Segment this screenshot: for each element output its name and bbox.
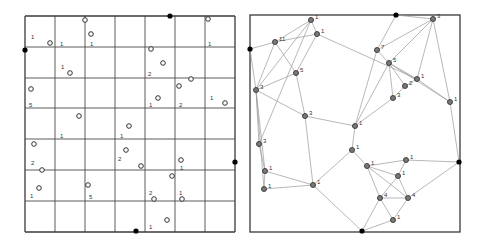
open-point — [127, 124, 132, 129]
node-label: 7 — [381, 44, 385, 50]
open-point — [177, 84, 182, 89]
network-edge — [362, 198, 380, 231]
cell-label: 2 — [179, 102, 183, 108]
node-labels: 11115333111375123111111441 — [260, 13, 458, 220]
cell-label: 1 — [31, 34, 35, 40]
network-edge — [265, 171, 313, 185]
network-panel: 11115333111375123111111441 — [247, 12, 461, 233]
network-node — [273, 40, 278, 45]
boundary-node — [359, 228, 364, 233]
cell-label: 1 — [30, 193, 34, 199]
network-edge — [256, 20, 311, 90]
network-node — [309, 18, 314, 23]
network-node — [254, 88, 259, 93]
network-node — [303, 114, 308, 119]
network-edge — [305, 116, 313, 185]
network-node — [311, 183, 316, 188]
cell-label: 2 — [149, 190, 153, 196]
open-point — [179, 158, 184, 163]
node-label: 1 — [317, 179, 321, 185]
network-edge — [317, 34, 417, 79]
network-edge — [393, 198, 408, 220]
network-node — [353, 124, 358, 129]
network-node — [391, 96, 396, 101]
network-edge — [380, 176, 398, 198]
node-label: 5 — [300, 67, 304, 73]
open-point — [149, 47, 154, 52]
network-edge — [367, 166, 398, 176]
network-node — [378, 196, 383, 201]
node-label: 3 — [397, 92, 401, 98]
cell-label: 1 — [120, 133, 124, 139]
node-label: 11 — [279, 36, 286, 42]
network-node — [396, 174, 401, 179]
open-point — [165, 218, 170, 223]
network-edge — [256, 90, 265, 171]
node-label: 1 — [269, 165, 273, 171]
node-label: 1 — [356, 144, 360, 150]
network-edge — [406, 160, 459, 162]
network-edge — [417, 79, 450, 102]
network-edge — [352, 150, 367, 166]
boundary-node — [393, 12, 398, 17]
network-edge — [362, 220, 393, 231]
network-edge — [256, 90, 305, 116]
network-nodes — [254, 17, 453, 223]
boundary-node — [456, 159, 461, 164]
open-point — [156, 96, 161, 101]
node-label: 4 — [384, 192, 388, 198]
open-point — [124, 148, 129, 153]
cell-label: 1 — [60, 133, 64, 139]
network-node — [350, 148, 355, 153]
network-node — [391, 218, 396, 223]
network-node — [404, 158, 409, 163]
node-label: 3 — [263, 138, 267, 144]
boundary-node — [232, 159, 237, 164]
cell-label: 2 — [118, 156, 122, 162]
open-point — [206, 17, 211, 22]
open-point — [32, 142, 37, 147]
network-edge — [313, 185, 362, 231]
open-point — [83, 18, 88, 23]
cell-label: 1 — [61, 64, 65, 70]
cell-label: 5 — [89, 194, 93, 200]
open-point — [152, 197, 157, 202]
open-point — [40, 168, 45, 173]
node-label: 5 — [393, 57, 397, 63]
network-edge — [408, 162, 459, 198]
network-node — [263, 169, 268, 174]
network-node — [365, 164, 370, 169]
cell-label: 1 — [149, 102, 153, 108]
network-edges — [250, 15, 459, 231]
node-label: 3 — [309, 110, 313, 116]
network-edge — [450, 102, 459, 162]
open-point — [86, 183, 91, 188]
network-edge — [275, 42, 296, 73]
network-edge — [264, 185, 313, 189]
open-point — [89, 32, 94, 37]
cell-label: 5 — [29, 102, 33, 108]
cell-label: 1 — [60, 41, 64, 47]
network-node — [403, 84, 408, 89]
network-edge — [398, 176, 408, 198]
network-edge — [305, 116, 355, 126]
network-node — [375, 48, 380, 53]
network-node — [406, 196, 411, 201]
node-label: 1 — [397, 214, 401, 220]
open-point — [170, 174, 175, 179]
network-edge — [352, 126, 355, 150]
open-point — [180, 197, 185, 202]
figure-canvas: 11111251211122115211 1111533311137512311… — [0, 0, 486, 243]
node-label: 1 — [410, 154, 414, 160]
open-point — [223, 101, 228, 106]
boundary-node — [22, 47, 27, 52]
open-point — [77, 114, 82, 119]
network-node — [262, 187, 267, 192]
cell-label: 2 — [148, 71, 152, 77]
open-points — [29, 17, 228, 223]
network-edge — [250, 49, 256, 90]
cell-label: 1 — [149, 224, 153, 230]
network-node — [257, 142, 262, 147]
boundary-nodes — [247, 12, 461, 233]
open-point — [189, 77, 194, 82]
